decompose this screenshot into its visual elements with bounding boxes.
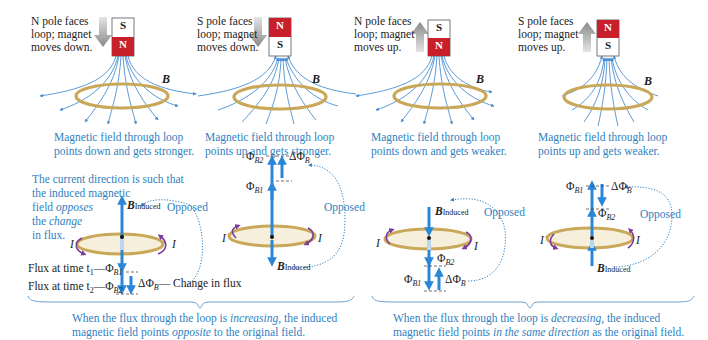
current-label: I [540, 234, 544, 247]
explanation-line: field opposes [32, 200, 184, 214]
label-line: moves up. [518, 41, 578, 54]
text: ΔΦ [138, 277, 154, 289]
emphasis: opposite [172, 326, 211, 338]
magnet-pole-top: N [597, 21, 619, 33]
magnet-pole-top: S [428, 21, 450, 33]
label-line: loop; magnet [518, 28, 578, 41]
motion-arrow-up-icon [578, 22, 596, 52]
summary-increasing: When the flux through the loop is increa… [72, 311, 337, 339]
text: the [32, 215, 49, 227]
summary-line: When the flux through the loop is increa… [72, 311, 337, 325]
subscript: B2 [445, 258, 454, 267]
text: , the induced [601, 312, 660, 324]
phi-b2-label: ΦB2 [437, 252, 454, 269]
b-induced-label: BInduced [435, 205, 468, 219]
flux-t2-label: Flux at time t2—ΦB2 [28, 280, 122, 297]
current-label: I [70, 238, 74, 251]
text: When the flux through the loop is [393, 312, 551, 324]
subscript: B1 [254, 186, 263, 195]
current-label: I [474, 240, 478, 253]
current-label: I [376, 237, 380, 250]
emphasis: change [49, 215, 82, 227]
emphasis: opposes [56, 201, 93, 213]
summary-decreasing: When the flux through the loop is decrea… [393, 311, 684, 339]
current-label: I [318, 232, 322, 245]
top-panel-3-caption: Magnetic field through loop points down … [371, 130, 507, 158]
top-panel-1-motion-label: N pole faces loop; magnet moves down. [31, 15, 92, 54]
label-line: moves up. [354, 41, 414, 54]
text: magnetic field points [72, 326, 172, 338]
subscript: Induced [605, 265, 631, 274]
magnet-pole-top: S [112, 19, 134, 31]
top-panel-4-caption: Magnetic field through loop points up an… [538, 130, 667, 158]
b-symbol: B [127, 199, 135, 211]
phi-b2-label: ΦB2 [598, 207, 615, 224]
b-induced-label: BInduced [597, 262, 630, 276]
label-line: S pole faces [518, 15, 578, 28]
opposed-label: Opposed [167, 200, 208, 214]
subscript: B2 [254, 156, 263, 165]
caption-line: Magnetic field through loop [538, 130, 667, 144]
magnet-pole-bottom: N [112, 38, 134, 50]
b-symbol: B [597, 262, 605, 274]
field-vector-label: B [312, 72, 320, 87]
top-panel-2-motion-label: S pole faces loop; magnet moves down. [197, 15, 258, 54]
caption-line: points up and gets weaker. [538, 144, 667, 158]
caption-line: points down and gets weaker. [371, 144, 507, 158]
delta-flux-label: ΔΦB— Change in flux [138, 277, 241, 294]
text: Flux at time t [28, 262, 90, 274]
summary-line: magnetic field points in the same direct… [393, 325, 684, 339]
top-panel-2-caption: Magnetic field through loop points up an… [205, 130, 334, 158]
delta-flux-label: ΔΦB [611, 180, 632, 197]
label-line: loop; magnet [31, 28, 92, 41]
text: ΔΦ [611, 180, 627, 192]
magnet-pole-bottom: N [428, 39, 450, 51]
subscript: Induced [285, 263, 311, 272]
subscript: Induced [443, 208, 469, 217]
opposed-dotted-arrow [292, 165, 345, 268]
text: to the original field. [211, 326, 305, 338]
b-induced-label: BInduced [277, 260, 310, 274]
current-label: I [172, 238, 176, 251]
label-line: S pole faces [197, 15, 258, 28]
text: —Φ [94, 262, 114, 274]
opposed-dotted-arrow [616, 187, 672, 267]
b-induced-label: BInduced [127, 199, 160, 213]
text: field [32, 201, 56, 213]
text: , the induced [278, 312, 337, 324]
text: ΔΦ [289, 150, 305, 162]
label-line: loop; magnet [354, 28, 414, 41]
induced-current-explanation: The current direction is such that the i… [32, 172, 184, 242]
delta-flux-label: ΔΦB [289, 150, 310, 167]
caption-line: points up and gets stronger. [205, 144, 334, 158]
label-line: N pole faces [354, 15, 414, 28]
text: Flux at time t [28, 280, 90, 292]
explanation-line: in flux. [32, 228, 184, 242]
emphasis: decreasing [551, 312, 601, 324]
label-line: N pole faces [31, 15, 92, 28]
b-symbol: B [435, 205, 443, 217]
opposed-label: Opposed [484, 205, 525, 219]
text: as the original field. [589, 326, 684, 338]
phi-b1-label: ΦB1 [566, 180, 583, 197]
explanation-line: the change [32, 214, 184, 228]
current-label: I [636, 234, 640, 247]
subscript: Induced [135, 202, 161, 211]
caption-line: Magnetic field through loop [205, 130, 334, 144]
explanation-line: the induced magnetic [32, 186, 184, 200]
phi-b1-label: ΦB1 [404, 273, 421, 290]
field-vector-label: B [162, 72, 170, 87]
caption-line: Magnetic field through loop [54, 130, 194, 144]
flux-t1-label: Flux at time t1—ΦB1 [28, 262, 122, 279]
text: —Φ [94, 280, 114, 292]
top-panel-3-motion-label: N pole faces loop; magnet moves up. [354, 15, 414, 54]
opposed-label: Opposed [640, 207, 681, 221]
phi-b1-label: ΦB1 [246, 180, 263, 197]
top-panel-1-caption: Magnetic field through loop points down … [54, 130, 194, 158]
label-line: loop; magnet [197, 28, 258, 41]
field-vector-label: B [644, 74, 652, 89]
subscript: B1 [114, 268, 123, 277]
subscript: B2 [606, 213, 615, 222]
text: When the flux through the loop is [72, 312, 230, 324]
text: — Change in flux [159, 277, 242, 289]
